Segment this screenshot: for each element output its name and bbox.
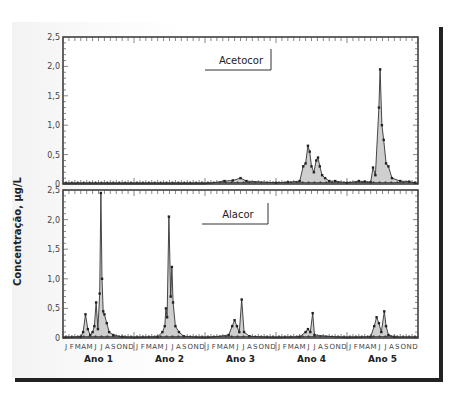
data-point (103, 313, 105, 315)
y-tick-label: 1,0 (47, 121, 60, 130)
data-point (387, 165, 389, 167)
month-tick-label: J (312, 343, 315, 351)
month-tick-label: F (354, 343, 358, 351)
data-point (373, 325, 375, 327)
month-tick-label: D (412, 343, 417, 351)
y-tick-label: 2,5 (47, 186, 60, 195)
data-point (304, 331, 306, 333)
data-point (317, 156, 319, 158)
month-tick-label: A (294, 343, 299, 351)
data-point (95, 301, 97, 303)
data-point (239, 177, 241, 179)
data-point (171, 266, 173, 268)
month-tick-label: N (336, 343, 341, 351)
month-tick-label: S (395, 343, 400, 351)
month-tick-label: M (229, 343, 235, 351)
y-tick-label: 1,0 (47, 275, 60, 284)
data-point (375, 316, 377, 318)
data-point (382, 139, 384, 141)
chart-figure: 00,51,01,52,02,5Acetocor00,51,01,52,02,5… (0, 0, 453, 394)
month-tick-label: M (87, 343, 93, 351)
data-point (174, 325, 176, 327)
data-point (101, 278, 103, 280)
data-point (166, 316, 168, 318)
month-tick-label: D (128, 343, 133, 351)
data-point (334, 180, 336, 182)
data-point (172, 301, 174, 303)
data-point (358, 180, 360, 182)
data-point (309, 150, 311, 152)
data-point (307, 145, 309, 147)
month-tick-label: N (194, 343, 199, 351)
year-label: Ano 2 (155, 354, 184, 364)
data-point (245, 180, 247, 182)
month-tick-label: J (348, 343, 351, 351)
y-tick-label: 0 (55, 334, 60, 343)
month-tick-label: M (146, 343, 152, 351)
month-tick-label: J (277, 343, 280, 351)
y-tick-label: 2,5 (47, 33, 60, 42)
data-point (387, 334, 389, 336)
month-tick-label: S (182, 343, 187, 351)
data-point (315, 159, 317, 161)
month-tick-label: J (135, 343, 138, 351)
data-point (313, 171, 315, 173)
month-tick-label: J (64, 343, 67, 351)
data-point (307, 328, 309, 330)
panel-label-alacor: Alacor (222, 209, 254, 220)
data-point (161, 331, 163, 333)
data-point (98, 292, 100, 294)
data-point (84, 313, 86, 315)
month-tick-label: A (176, 343, 181, 351)
month-tick-label: A (389, 343, 394, 351)
data-point (298, 180, 300, 182)
data-point (383, 310, 385, 312)
month-tick-label: J (383, 343, 386, 351)
y-tick-label: 0,5 (47, 151, 60, 160)
data-point (399, 180, 401, 182)
data-point (319, 165, 321, 167)
month-tick-label: J (236, 343, 239, 351)
data-point (309, 331, 311, 333)
data-point (372, 166, 374, 168)
data-point (304, 162, 306, 164)
data-point (87, 328, 89, 330)
y-axis-label: Concentração, µg/L (12, 167, 23, 297)
y-tick-label: 2,0 (47, 62, 60, 71)
month-tick-label: J (99, 343, 102, 351)
data-point (385, 325, 387, 327)
data-point (93, 325, 95, 327)
month-tick-label: A (318, 343, 323, 351)
data-point (321, 174, 323, 176)
month-tick-label: J (170, 343, 173, 351)
month-tick-label: N (123, 343, 128, 351)
data-point (106, 322, 108, 324)
data-point (232, 179, 234, 181)
y-tick-label: 1,5 (47, 92, 60, 101)
x-axis-labels: JFMAMJJASONDAno 1JFMAMJJASONDAno 2JFMAMJ… (64, 342, 418, 364)
year-label: Ano 1 (84, 354, 113, 364)
data-point (240, 298, 242, 300)
panel-acetocor: 00,51,01,52,02,5Acetocor (47, 33, 418, 189)
year-label: Ano 3 (226, 354, 255, 364)
month-tick-label: M (288, 343, 294, 351)
data-point (378, 322, 380, 324)
month-tick-label: N (265, 343, 270, 351)
month-tick-label: F (283, 343, 287, 351)
data-point (328, 180, 330, 182)
data-point (238, 331, 240, 333)
month-tick-label: A (365, 343, 370, 351)
y-tick-label: 2,0 (47, 216, 60, 225)
data-point (381, 124, 383, 126)
month-tick-label: J (165, 343, 168, 351)
month-tick-label: S (324, 343, 329, 351)
data-point (165, 307, 167, 309)
data-point (168, 215, 170, 217)
data-point (233, 319, 235, 321)
month-tick-label: M (75, 343, 81, 351)
month-tick-label: J (241, 343, 244, 351)
data-point (374, 174, 376, 176)
data-point (379, 68, 381, 70)
month-tick-label: J (206, 343, 209, 351)
data-point (100, 192, 102, 194)
